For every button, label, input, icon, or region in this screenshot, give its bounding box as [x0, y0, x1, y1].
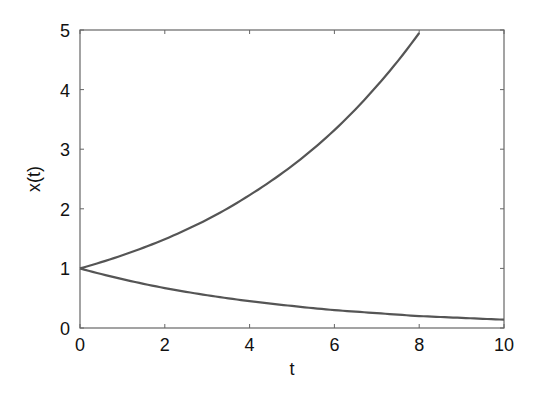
x-tick-label: 4 — [245, 335, 255, 355]
y-tick-label: 1 — [60, 259, 70, 279]
line-chart: 0246810 012345 t x(t) — [0, 0, 534, 393]
x-tick-label: 10 — [494, 335, 514, 355]
x-tick-label: 8 — [414, 335, 424, 355]
x-tick-label: 6 — [329, 335, 339, 355]
x-tick-label: 0 — [75, 335, 85, 355]
y-tick-label: 2 — [60, 200, 70, 220]
y-tick-label: 0 — [60, 319, 70, 339]
y-tick-label: 5 — [60, 21, 70, 41]
y-tick-label: 3 — [60, 140, 70, 160]
x-axis-label: t — [289, 359, 294, 379]
y-axis-label: x(t) — [24, 166, 44, 192]
y-tick-label: 4 — [60, 81, 70, 101]
x-tick-label: 2 — [160, 335, 170, 355]
